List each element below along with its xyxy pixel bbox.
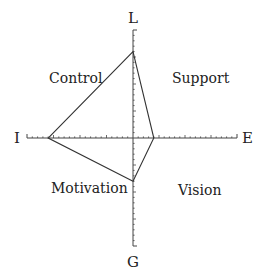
axis-label-right: E [242, 130, 253, 146]
radar-diagram [0, 0, 263, 280]
quadrant-label-motivation: Motivation [51, 180, 128, 196]
quadrant-label-control: Control [49, 70, 102, 86]
axis-label-left: I [14, 130, 20, 146]
quadrant-label-support: Support [172, 70, 229, 86]
axis-label-bottom: G [127, 254, 139, 270]
quadrant-label-vision: Vision [178, 182, 221, 198]
axis-label-top: L [128, 10, 138, 26]
